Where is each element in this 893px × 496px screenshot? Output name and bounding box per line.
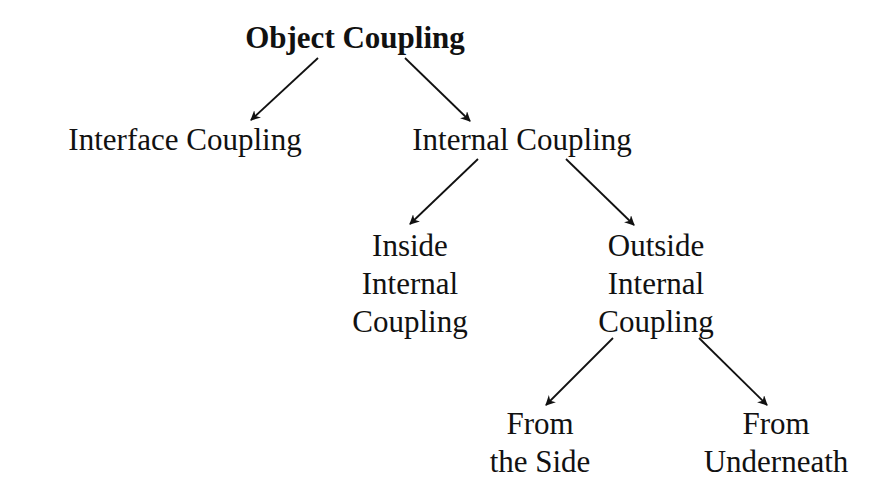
node-label: Internal	[566, 265, 746, 303]
node-object-coupling: Object Coupling	[200, 19, 510, 57]
node-internal-coupling: Internal Coupling	[372, 121, 672, 159]
node-from-the-side: From the Side	[460, 405, 620, 481]
node-label: From	[460, 405, 620, 443]
edge-root-interface	[251, 58, 318, 120]
edge-internal-inside	[410, 159, 478, 224]
node-interface-coupling: Interface Coupling	[35, 121, 335, 159]
node-label: Object Coupling	[200, 19, 510, 57]
node-from-underneath: From Underneath	[686, 405, 866, 481]
node-label: Coupling	[320, 303, 500, 341]
edge-outside-underneath	[699, 338, 767, 405]
node-label: Coupling	[566, 303, 746, 341]
node-label: From	[686, 405, 866, 443]
node-label: Outside	[566, 227, 746, 265]
node-inside-internal-coupling: Inside Internal Coupling	[320, 227, 500, 341]
edge-internal-outside	[566, 159, 634, 225]
node-label: Interface Coupling	[35, 121, 335, 159]
node-label: Underneath	[686, 443, 866, 481]
node-label: Inside	[320, 227, 500, 265]
node-outside-internal-coupling: Outside Internal Coupling	[566, 227, 746, 341]
node-label: Internal Coupling	[372, 121, 672, 159]
node-label: the Side	[460, 443, 620, 481]
node-label: Internal	[320, 265, 500, 303]
edge-root-internal	[405, 58, 470, 121]
edge-outside-side	[546, 338, 613, 405]
